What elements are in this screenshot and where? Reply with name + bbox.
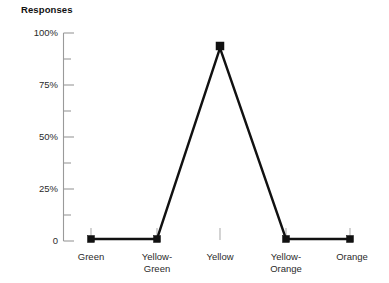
x-tick-label-green-line1: Green [78,251,104,262]
y-tick-label-0: 0 [53,235,58,246]
chart-container: Responses 100% 75% 50% 25% 0 [0,0,389,283]
x-tick-label-yellow-line1: Yellow [206,251,233,262]
x-axis-tick-labels: Green Yellow- Green Yellow Yellow- Orang… [78,251,368,274]
y-tick-label-50: 50% [39,131,59,142]
line-chart-plot: 100% 75% 50% 25% 0 Green Yellow- [0,0,389,283]
x-tick-label-yellow-orange-line1: Yellow- [271,251,301,262]
y-tick-label-100: 100% [34,27,59,38]
x-tick-label-yellow-green-line1: Yellow- [142,251,172,262]
y-tick-label-75: 75% [39,79,59,90]
data-point-green [88,236,95,243]
data-point-yellow [216,42,224,50]
x-tick-label-orange-line1: Orange [336,251,368,262]
x-tick-label-yellow-orange-line2: Orange [270,263,302,274]
data-point-yellow-green [154,236,161,243]
data-point-orange [347,236,354,243]
y-axis-major-ticks [64,33,75,241]
y-tick-label-25: 25% [39,183,59,194]
y-axis-tick-labels: 100% 75% 50% 25% 0 [34,27,59,246]
x-tick-label-yellow-green-line2: Green [144,263,170,274]
series-line-responses [91,48,350,239]
series-markers [88,42,354,243]
data-point-yellow-orange [283,236,290,243]
